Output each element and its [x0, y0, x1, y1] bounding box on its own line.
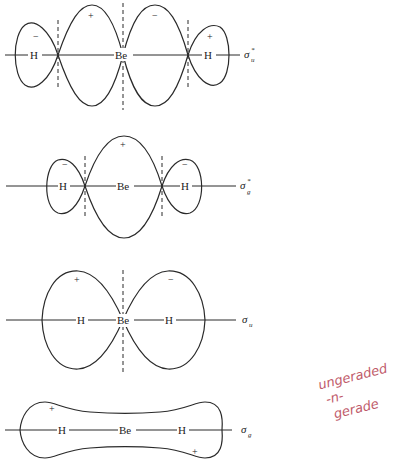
svg-text:g: g — [247, 188, 251, 196]
phase-sign: + — [207, 31, 213, 42]
phase-sign: − — [182, 159, 188, 170]
atom-h-left: H — [58, 424, 66, 436]
atom-be: Be — [117, 314, 129, 326]
orbital-sigma-g: H Be H + + σ g — [5, 402, 252, 458]
svg-text:u: u — [249, 321, 253, 329]
atom-be: Be — [117, 180, 129, 192]
svg-text:σ: σ — [241, 423, 247, 435]
svg-text:σ: σ — [242, 313, 248, 325]
orbital-sigma-u: H Be H + − σ u — [6, 270, 253, 372]
phase-sign: + — [49, 403, 55, 414]
atom-h-right: H — [165, 314, 173, 326]
orbital-label: σ u * — [244, 46, 255, 64]
atom-h-left: H — [77, 314, 85, 326]
svg-text:σ: σ — [240, 179, 246, 191]
orbital-label: σ g * — [240, 177, 251, 196]
orbital-label: σ u — [242, 313, 253, 329]
phase-sign: + — [120, 139, 126, 150]
atom-h-right: H — [178, 424, 186, 436]
orbital-label: σ g — [241, 423, 252, 439]
atom-h-left: H — [59, 180, 67, 192]
handwritten-annotation: ungeraded -n- gerade — [317, 361, 398, 424]
atom-h-right: H — [181, 180, 189, 192]
phase-sign: + — [74, 274, 80, 285]
mo-diagram: H Be H − + − + σ u * H Be H − + − σ — [0, 0, 410, 467]
svg-text:u: u — [251, 56, 255, 64]
atom-be: Be — [119, 424, 131, 436]
svg-text:*: * — [247, 177, 251, 185]
svg-text:*: * — [251, 46, 255, 54]
phase-sign: + — [192, 446, 198, 457]
svg-text:ungeraded: ungeraded — [317, 361, 390, 393]
phase-sign: − — [168, 274, 174, 285]
svg-text:σ: σ — [244, 48, 250, 60]
atom-h-right: H — [204, 49, 212, 61]
phase-sign: − — [152, 10, 158, 21]
atom-be: Be — [115, 49, 127, 61]
orbital-sigma-g-star: H Be H − + − σ g * — [6, 136, 251, 238]
phase-sign: − — [33, 31, 39, 42]
orbital-sigma-u-star: H Be H − + − + σ u * — [5, 3, 255, 110]
svg-text:g: g — [248, 431, 252, 439]
phase-sign: + — [88, 10, 94, 21]
atom-h-left: H — [30, 49, 38, 61]
phase-sign: − — [62, 159, 68, 170]
